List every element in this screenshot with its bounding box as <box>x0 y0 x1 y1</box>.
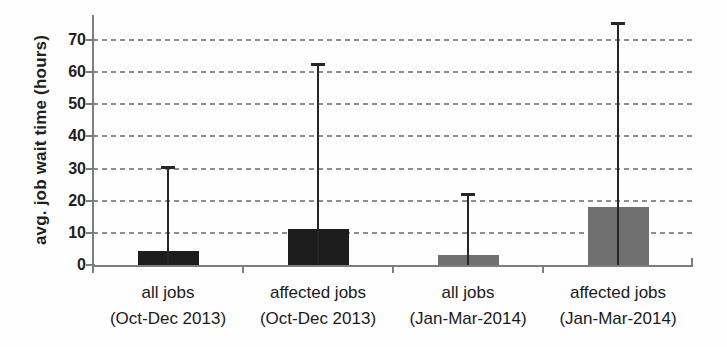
category-label-line1: all jobs <box>93 280 243 306</box>
y-axis-tick-label: 10 <box>48 224 86 242</box>
y-axis-tick-label: 0 <box>48 256 86 274</box>
category-label-line1: all jobs <box>393 280 543 306</box>
gridline <box>93 200 693 202</box>
y-axis-tick-label: 50 <box>48 95 86 113</box>
y-axis-tick-label: 70 <box>48 31 86 49</box>
y-axis-tick-label: 60 <box>48 63 86 81</box>
category-label-line2: (Oct-Dec 2013) <box>243 306 393 332</box>
gridline <box>93 168 693 170</box>
category-label: all jobs(Jan-Mar-2014) <box>393 280 543 332</box>
y-axis-tick-label: 40 <box>48 127 86 145</box>
gridline <box>93 103 693 105</box>
error-bar <box>317 64 319 265</box>
category-label: affected jobs(Jan-Mar-2014) <box>543 280 693 332</box>
error-bar <box>167 167 169 265</box>
category-label-line2: (Oct-Dec 2013) <box>93 306 243 332</box>
category-label: affected jobs(Oct-Dec 2013) <box>243 280 393 332</box>
plot-area: 010203040506070all jobs(Oct-Dec 2013)aff… <box>0 0 727 347</box>
category-label-line1: affected jobs <box>243 280 393 306</box>
gridline <box>93 135 693 137</box>
error-bar-cap <box>311 63 325 66</box>
gridline <box>93 39 693 41</box>
error-bar-cap <box>461 193 475 196</box>
y-axis-tick-label: 20 <box>48 192 86 210</box>
y-axis-line <box>92 15 94 273</box>
error-bar-cap <box>611 22 625 25</box>
error-bar <box>467 194 469 265</box>
error-bar <box>617 23 619 265</box>
x-axis-line <box>93 265 693 267</box>
category-label: all jobs(Oct-Dec 2013) <box>93 280 243 332</box>
category-label-line2: (Jan-Mar-2014) <box>393 306 543 332</box>
category-label-line1: affected jobs <box>543 280 693 306</box>
bar-chart: avg. job wait time (hours) 0102030405060… <box>0 0 727 347</box>
x-axis-end-tick <box>691 258 693 267</box>
gridline <box>93 71 693 73</box>
y-axis-tick-label: 30 <box>48 160 86 178</box>
category-label-line2: (Jan-Mar-2014) <box>543 306 693 332</box>
error-bar-cap <box>161 166 175 169</box>
